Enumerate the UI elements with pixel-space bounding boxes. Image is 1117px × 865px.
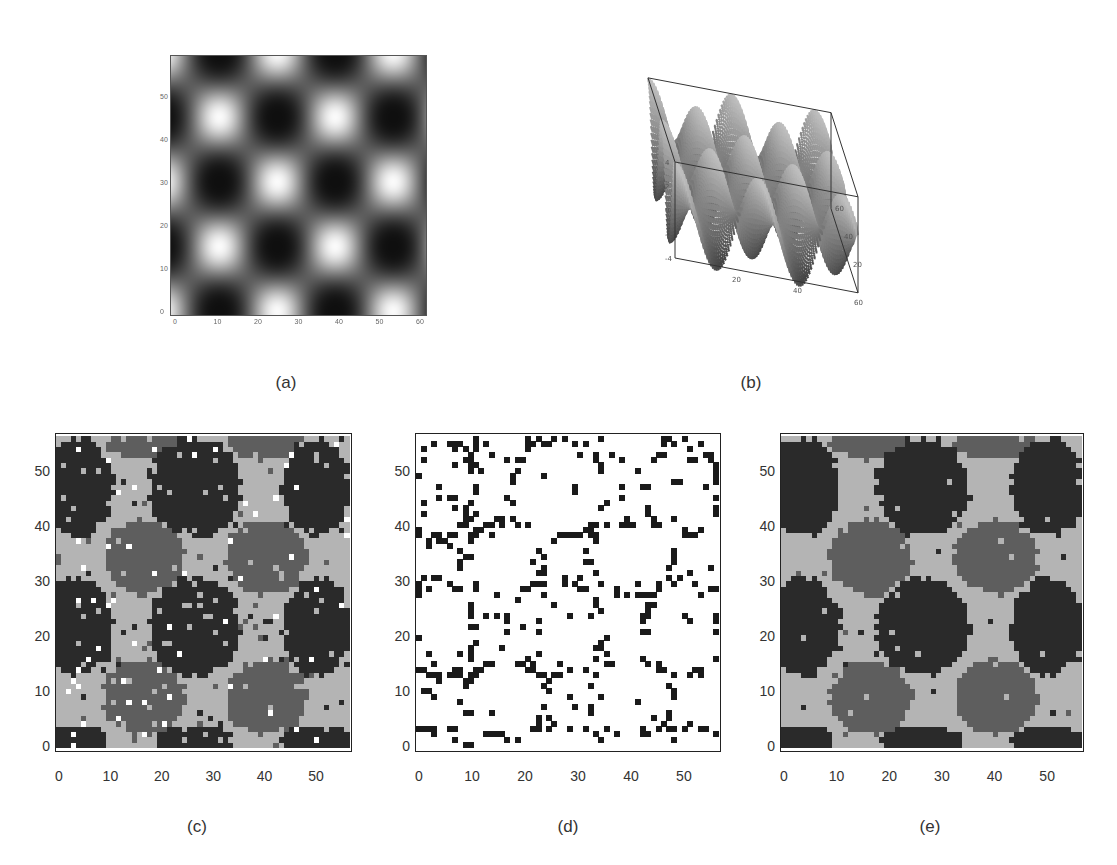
x-tick-label: 40 [257,768,273,784]
y-tick-label: 10 [160,265,168,272]
x-tick-label: 30 [934,768,950,784]
panel-a-label: (a) [276,373,297,393]
panel-d-binary-map [415,433,721,752]
y-tick-label: 40 [382,518,410,534]
y-tick-label: 10 [747,683,775,699]
x-tick-label: 40 [623,768,639,784]
panel-e-label: (e) [920,817,941,837]
panel-b-label: (b) [741,373,762,393]
x-tick-label: 50 [308,768,324,784]
y-tick-label: 30 [22,573,50,589]
figure-caption-fragment [0,852,1117,865]
y-tick-label: 20 [382,628,410,644]
y-tick-label: 20 [747,628,775,644]
x-tick-label: 40 [987,768,1003,784]
y-tick-label: 50 [160,93,168,100]
panel-a-canvas [171,56,426,315]
y-tick-label: 0 [160,308,164,315]
panel-e-canvas [781,434,1082,750]
x-tick-label: 10 [829,768,845,784]
y-tick-label: 30 [160,179,168,186]
y-tick-label: 50 [747,463,775,479]
y-tick-label: 20 [160,222,168,229]
y-tick-label: 50 [22,463,50,479]
x-tick-label: 20 [254,318,262,325]
x-tick-label: 10 [103,768,119,784]
y-tick-label: 10 [22,683,50,699]
y-tick-label: 50 [382,463,410,479]
panel-d-label: (d) [558,817,579,837]
x-tick-label: 30 [205,768,221,784]
y-tick-label: 10 [382,683,410,699]
x-tick-label: 0 [55,768,63,784]
panel-b-canvas [560,20,920,340]
y-tick-label: 40 [160,136,168,143]
y-tick-label: 0 [747,738,775,754]
x-tick-label: 0 [415,768,423,784]
x-tick-label: 0 [173,318,177,325]
panel-c-label: (c) [187,817,207,837]
panel-d-canvas [416,434,719,750]
x-tick-label: 20 [517,768,533,784]
x-tick-label: 0 [780,768,788,784]
y-tick-label: 0 [382,738,410,754]
x-tick-label: 50 [1039,768,1055,784]
x-tick-label: 20 [881,768,897,784]
panel-e-cluster-map [780,433,1084,752]
x-tick-label: 50 [376,318,384,325]
panel-c-cluster-map [55,433,352,752]
x-tick-label: 30 [295,318,303,325]
x-tick-label: 20 [154,768,170,784]
panel-a-density-image [170,55,427,316]
panel-b-surface-plot [560,20,920,340]
x-tick-label: 10 [464,768,480,784]
y-tick-label: 0 [22,738,50,754]
y-tick-label: 40 [22,518,50,534]
x-tick-label: 10 [214,318,222,325]
x-tick-label: 40 [335,318,343,325]
panel-c-canvas [56,434,350,750]
y-tick-label: 30 [382,573,410,589]
x-tick-label: 50 [676,768,692,784]
x-tick-label: 60 [416,318,424,325]
y-tick-label: 30 [747,573,775,589]
y-tick-label: 40 [747,518,775,534]
x-tick-label: 30 [570,768,586,784]
y-tick-label: 20 [22,628,50,644]
